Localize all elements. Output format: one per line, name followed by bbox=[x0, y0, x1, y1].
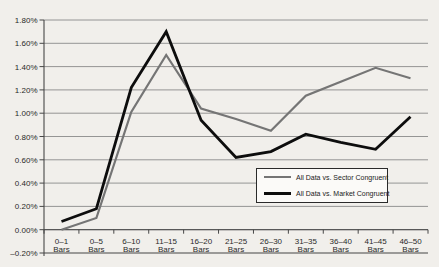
legend-line-sample-market bbox=[264, 192, 291, 195]
x-category-unit-label: Bars bbox=[88, 245, 104, 254]
x-category-unit-label: Bars bbox=[367, 245, 383, 254]
x-category-unit-label: Bars bbox=[263, 245, 279, 254]
y-axis-tick-label: 0.80% bbox=[15, 133, 38, 142]
x-category-unit-label: Bars bbox=[333, 245, 349, 254]
legend-entry-market: All Data vs. Market Congruent bbox=[264, 190, 387, 197]
x-category-unit-label: Bars bbox=[193, 245, 209, 254]
performance-line-chart-figure: 1.80%1.60%1.40%1.20%1.00%0.80%0.60%0.40%… bbox=[0, 0, 439, 267]
y-axis-tick-label: 0.20% bbox=[15, 202, 38, 211]
y-axis-tick-label: 1.00% bbox=[15, 109, 38, 118]
legend-line-sample-sector bbox=[264, 176, 291, 178]
x-category-unit-label: Bars bbox=[53, 245, 69, 254]
legend-entry-sector: All Data vs. Sector Congruent bbox=[264, 174, 387, 181]
y-axis-tick-label: –0.20% bbox=[10, 249, 37, 258]
chart-legend: All Data vs. Sector Congruent All Data v… bbox=[256, 168, 388, 203]
x-category-unit-label: Bars bbox=[402, 245, 418, 254]
y-axis-tick-label: 0.60% bbox=[15, 156, 38, 165]
y-axis-tick-label: 1.60% bbox=[15, 39, 38, 48]
y-axis-tick-label: 1.40% bbox=[15, 63, 38, 72]
y-axis-tick-label: 0.40% bbox=[15, 179, 38, 188]
line-chart: 1.80%1.60%1.40%1.20%1.00%0.80%0.60%0.40%… bbox=[0, 0, 439, 267]
y-axis-tick-label: 1.20% bbox=[15, 86, 38, 95]
y-axis-tick-label: 0.00% bbox=[15, 226, 38, 235]
series-line-sector-congruent bbox=[62, 55, 411, 230]
x-category-unit-label: Bars bbox=[123, 245, 139, 254]
legend-label-market: All Data vs. Market Congruent bbox=[296, 190, 389, 197]
y-axis-tick-label: 1.80% bbox=[15, 16, 38, 25]
x-category-unit-label: Bars bbox=[298, 245, 314, 254]
legend-label-sector: All Data vs. Sector Congruent bbox=[296, 174, 388, 181]
x-category-unit-label: Bars bbox=[228, 245, 244, 254]
x-category-unit-label: Bars bbox=[158, 245, 174, 254]
